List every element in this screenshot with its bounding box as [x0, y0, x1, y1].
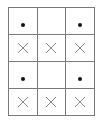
cross-icon [17, 96, 29, 108]
cross-icon [74, 96, 86, 108]
grid-cell-dot [66, 62, 95, 89]
grid-cell-dot [9, 62, 38, 89]
cross-icon [17, 42, 29, 54]
grid-cell-dot [66, 8, 95, 35]
dot-icon [78, 77, 82, 81]
grid-cell-cross [9, 89, 38, 116]
grid-cell-cross [66, 89, 95, 116]
grid-cell-empty [37, 8, 66, 35]
cross-icon [74, 42, 86, 54]
grid-cell-cross [66, 35, 95, 62]
grid-row [9, 62, 95, 89]
grid-row [9, 35, 95, 62]
grid-cell-cross [37, 89, 66, 116]
cross-icon [45, 96, 57, 108]
dot-icon [21, 77, 25, 81]
grid-cell-empty [37, 62, 66, 89]
grid-row [9, 8, 95, 35]
grid-cell-cross [9, 35, 38, 62]
grid-cell-dot [9, 8, 38, 35]
grid-row [9, 89, 95, 116]
cross-icon [45, 42, 57, 54]
dot-icon [78, 23, 82, 27]
dot-icon [21, 23, 25, 27]
symbol-grid [8, 7, 95, 116]
grid-cell-cross [37, 35, 66, 62]
